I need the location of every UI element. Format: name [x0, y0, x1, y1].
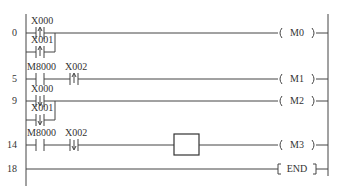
contact-label: X002	[65, 62, 87, 72]
step-number: 5	[5, 74, 17, 84]
step-number: 9	[5, 96, 17, 106]
contact-label: M8000	[27, 62, 56, 72]
contact-label: X001	[31, 103, 53, 113]
step-number: 14	[5, 140, 17, 150]
contact-label: X001	[31, 35, 53, 45]
contact-label: X000	[31, 16, 53, 26]
coil-label: M0	[282, 28, 312, 38]
coil-label: M2	[282, 96, 312, 106]
end-instruction-label: END	[282, 164, 312, 174]
blank-instruction-box	[174, 134, 199, 155]
coil-label: M1	[282, 74, 312, 84]
step-number: 0	[5, 28, 17, 38]
contact-label: X002	[65, 128, 87, 138]
contact-label: M8000	[27, 128, 56, 138]
contact-label: X000	[31, 84, 53, 94]
step-number: 18	[5, 164, 17, 174]
coil-label: M3	[282, 140, 312, 150]
